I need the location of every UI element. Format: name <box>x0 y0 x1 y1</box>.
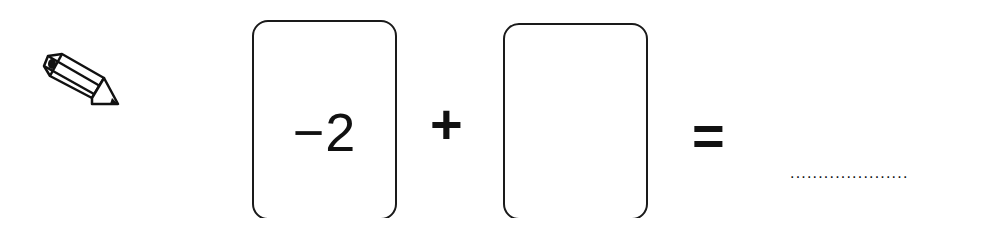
left-number-card: −2 <box>252 20 397 218</box>
answer-blank[interactable]: ..................... <box>790 165 965 181</box>
right-number-card[interactable] <box>503 23 648 218</box>
left-card-value: −2 <box>254 104 395 160</box>
pencil-icon <box>38 50 122 116</box>
equals-sign: = <box>692 108 725 164</box>
plus-sign: + <box>430 96 463 152</box>
